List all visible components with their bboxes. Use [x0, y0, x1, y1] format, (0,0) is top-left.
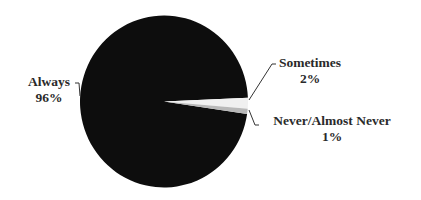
label-always: Always 96% — [22, 74, 76, 106]
leader-line-never — [249, 110, 259, 125]
leader-line-sometimes — [249, 64, 276, 100]
label-never: Never/Almost Never 1% — [262, 113, 402, 145]
label-always-pct: 96% — [22, 90, 76, 106]
label-sometimes-pct: 2% — [273, 71, 347, 87]
label-always-name: Always — [22, 74, 76, 90]
label-never-pct: 1% — [262, 129, 402, 145]
pie-slices — [80, 16, 248, 188]
label-never-name: Never/Almost Never — [262, 113, 402, 129]
label-sometimes: Sometimes 2% — [273, 55, 347, 87]
label-sometimes-name: Sometimes — [273, 55, 347, 71]
